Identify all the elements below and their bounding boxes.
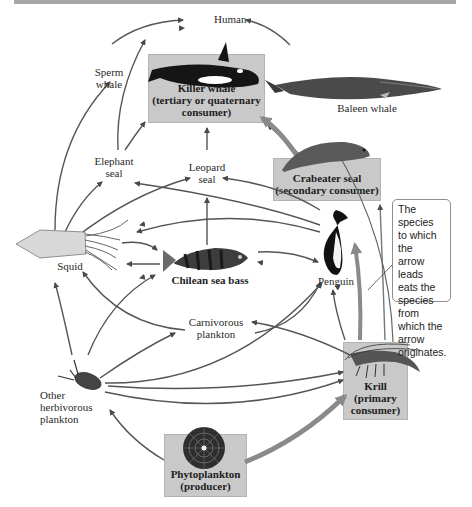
chilean-sea-bass-label: Chilean sea bass [160, 274, 260, 286]
chilean-sea-bass-icon [163, 248, 248, 272]
sperm-whale-label-2: whale [84, 78, 134, 90]
carnivorous-plankton-label-2: plankton [176, 328, 256, 340]
note-line-2: to which the [398, 229, 450, 255]
carnivorous-plankton-label-1: Carnivorous [176, 316, 256, 328]
note-line-1: The species [398, 203, 450, 229]
crabeater-seal-icon [282, 142, 370, 172]
penguin-label: Penguin [311, 275, 361, 287]
killer-whale-icon [148, 42, 259, 88]
note-line-8: originates. [398, 346, 450, 359]
human-label: Human [214, 13, 246, 25]
squid-label: Squid [50, 260, 90, 272]
note-line-3: arrow leads [398, 255, 450, 281]
baleen-whale-label: Baleen whale [327, 102, 407, 114]
note-line-6: which the [398, 320, 450, 333]
leopard-seal-label-1: Leopard [182, 161, 232, 173]
penguin-icon [324, 210, 348, 275]
note-line-4: eats the [398, 281, 450, 294]
elephant-seal-label-1: Elephant [86, 155, 142, 167]
note-line-7: arrow [398, 333, 450, 346]
elephant-seal-label-2: seal [86, 167, 142, 179]
herbivorous-plankton-label-2: herbivorous [40, 401, 93, 413]
note-line-5: species from [398, 294, 450, 320]
legend-callout: The species to which the arrow leads eat… [392, 199, 451, 302]
baleen-whale-icon [265, 77, 442, 99]
herbivorous-plankton-label-3: plankton [40, 413, 79, 425]
sperm-whale-label-1: Sperm [84, 66, 134, 78]
leopard-seal-label-2: seal [182, 173, 232, 185]
phytoplankton-icon [183, 427, 225, 469]
herbivorous-plankton-label-1: Other [40, 389, 65, 401]
